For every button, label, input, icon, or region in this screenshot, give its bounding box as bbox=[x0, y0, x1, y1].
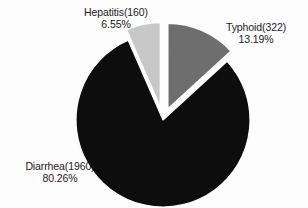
slice-label-typhoid-name: Typhoid(322) bbox=[204, 21, 308, 33]
slice-label-diarrhea: Diarrhea(1960) 80.26% bbox=[2, 160, 118, 184]
slice-label-typhoid-percent: 13.19% bbox=[204, 33, 308, 45]
slice-label-diarrhea-percent: 80.26% bbox=[2, 172, 118, 184]
slice-label-hepatitis-name: Hepatitis(160) bbox=[60, 6, 172, 18]
pie-chart: Hepatitis(160) 6.55% Typhoid(322) 13.19%… bbox=[0, 0, 308, 208]
slice-label-hepatitis: Hepatitis(160) 6.55% bbox=[60, 6, 172, 30]
slice-label-hepatitis-percent: 6.55% bbox=[60, 18, 172, 30]
slice-label-diarrhea-name: Diarrhea(1960) bbox=[2, 160, 118, 172]
slice-label-typhoid: Typhoid(322) 13.19% bbox=[204, 21, 308, 45]
